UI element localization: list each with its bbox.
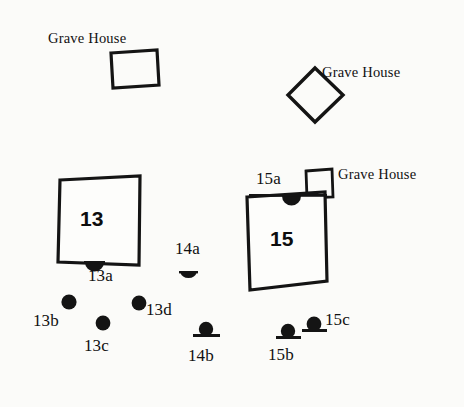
label-feature-15c: 15c: [325, 311, 350, 328]
label-feature-14a: 14a: [175, 240, 200, 257]
label-feature-15b: 15b: [268, 346, 294, 363]
label-feature-13a: 13a: [88, 267, 113, 284]
label-feature-13c: 13c: [84, 337, 109, 354]
label-grave-house-northwest: Grave House: [48, 31, 126, 46]
feature-13c-marker: [96, 316, 111, 331]
grave-house-northwest-shape: [111, 50, 159, 88]
label-grave-house-northeast: Grave House: [322, 65, 400, 80]
site-plan-drawing: [0, 0, 464, 407]
feature-13d-marker: [132, 296, 147, 311]
label-feature-13b: 13b: [33, 312, 59, 329]
feature-14b-marker: [193, 322, 220, 337]
label-feature-14b: 14b: [188, 347, 214, 364]
site-plan-figure: Grave House Grave House Grave House 13 1…: [0, 0, 464, 407]
label-building-15: 15: [270, 228, 293, 249]
feature-15c-marker: [302, 317, 327, 332]
label-feature-15a: 15a: [256, 170, 281, 187]
label-building-13: 13: [80, 208, 103, 229]
label-grave-house-east: Grave House: [338, 167, 416, 182]
feature-15b-marker: [276, 324, 301, 339]
feature-14a-marker: [179, 271, 198, 278]
feature-13b-marker: [61, 294, 76, 309]
label-feature-13d: 13d: [146, 301, 172, 318]
